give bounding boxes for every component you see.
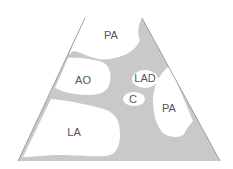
label-c: C [129, 94, 137, 105]
label-lad: LAD [134, 73, 155, 84]
heart-sector-diagram [0, 0, 233, 169]
label-pa-top: PA [104, 30, 118, 41]
label-pa-right: PA [162, 103, 176, 114]
label-la: LA [67, 127, 80, 138]
label-ao: AO [75, 75, 91, 86]
